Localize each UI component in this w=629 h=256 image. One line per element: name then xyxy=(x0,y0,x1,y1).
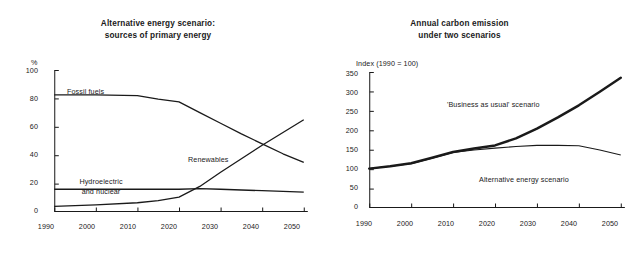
right-xtick-2000: 2000 xyxy=(385,219,425,228)
right-xtick-2040: 2040 xyxy=(549,219,589,228)
left-xtick-1990: 1990 xyxy=(26,222,66,231)
chart-panel-right: Annual carbon emission under two scenari… xyxy=(316,0,603,256)
left-ytick-20: 20 xyxy=(8,178,38,187)
left-xtick-2010: 2010 xyxy=(108,222,148,231)
right-xtick-2010: 2010 xyxy=(426,219,466,228)
right-ytick-200: 200 xyxy=(328,126,358,135)
left-chart-title-line-1: Alternative energy scenario: xyxy=(0,18,316,30)
right-xtick-2020: 2020 xyxy=(467,219,507,228)
left-ytick-80: 80 xyxy=(8,94,38,103)
left-series-fossil-fuels xyxy=(54,95,304,162)
left-xtick-2040: 2040 xyxy=(231,222,271,231)
left-label-renewables: Renewables xyxy=(188,155,229,165)
right-series-alternative-energy xyxy=(369,145,621,168)
right-chart-title: Annual carbon emission under two scenari… xyxy=(316,18,603,41)
right-ytick-100: 100 xyxy=(328,164,358,173)
right-xtick-2030: 2030 xyxy=(508,219,548,228)
left-xtick-2030: 2030 xyxy=(190,222,230,231)
right-xtick-1990: 1990 xyxy=(344,219,384,228)
left-ytick-60: 60 xyxy=(8,122,38,131)
left-ytick-100: 100 xyxy=(8,66,38,75)
right-label-alternative-energy: Alternative energy scenario xyxy=(479,175,569,185)
right-ytick-300: 300 xyxy=(328,88,358,97)
left-chart-title: Alternative energy scenario: sources of … xyxy=(0,18,316,41)
chart-panel-left: Alternative energy scenario: sources of … xyxy=(0,0,316,256)
left-xtick-2000: 2000 xyxy=(67,222,107,231)
right-ytick-0: 0 xyxy=(328,202,358,211)
right-ytick-350: 350 xyxy=(328,69,358,78)
right-xtick-2050: 2050 xyxy=(590,219,629,228)
left-ytick-40: 40 xyxy=(8,150,38,159)
right-chart-title-line-1: Annual carbon emission xyxy=(316,18,603,30)
left-label-hydroelectric-line-2: and nuclear xyxy=(65,187,137,197)
left-ytick-0: 0 xyxy=(8,206,38,215)
right-ytick-250: 250 xyxy=(328,107,358,116)
left-label-hydroelectric-line-1: Hydroelectric xyxy=(65,177,137,187)
right-chart-title-line-2: under two scenarios xyxy=(316,30,603,42)
right-ytick-150: 150 xyxy=(328,145,358,154)
right-label-business-as-usual: 'Business as usual' scenario xyxy=(447,100,540,110)
left-xtick-2020: 2020 xyxy=(149,222,189,231)
right-y-axis-label: Index (1990 = 100) xyxy=(356,59,418,68)
left-chart-title-line-2: sources of primary energy xyxy=(0,30,316,42)
right-plot-area xyxy=(364,72,626,208)
right-series-business-as-usual xyxy=(369,78,621,169)
right-axes xyxy=(370,72,625,208)
right-ytick-50: 50 xyxy=(328,183,358,192)
left-xtick-2050: 2050 xyxy=(272,222,312,231)
left-label-hydroelectric-and-nuclear: Hydroelectric and nuclear xyxy=(65,177,137,196)
left-label-fossil-fuels: Fossil fuels xyxy=(67,87,104,97)
